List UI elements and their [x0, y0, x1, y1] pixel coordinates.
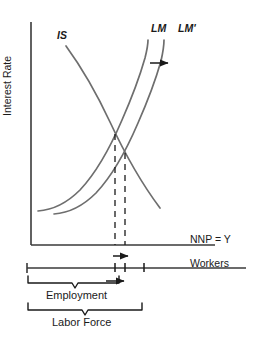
employment-bracket-label: Employment — [46, 290, 107, 301]
lm-curve — [38, 40, 148, 211]
is-curve — [66, 46, 160, 208]
x-axis-workers-label: Workers — [190, 258, 229, 269]
labor-force-bracket — [28, 303, 142, 315]
diagram-canvas — [0, 0, 259, 337]
lm-shifted-curve-label: LM' — [178, 23, 196, 34]
is-curve-label: IS — [57, 30, 67, 41]
is-lm-diagram: Interest Rate IS LM LM' NNP = Y Workers … — [0, 0, 259, 337]
x-axis-nnp-label: NNP = Y — [190, 234, 231, 245]
labor-force-bracket-label: Labor Force — [52, 317, 111, 328]
y-axis-label: Interest Rate — [2, 100, 13, 116]
lm-shifted-curve — [54, 40, 164, 214]
employment-bracket — [28, 276, 119, 288]
lm-curve-label: LM — [151, 23, 166, 34]
